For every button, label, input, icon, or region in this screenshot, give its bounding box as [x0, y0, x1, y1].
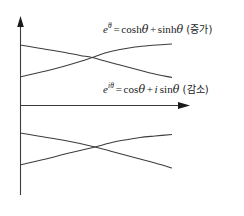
oscillation-annotation: (감소) [180, 84, 209, 95]
oscillation-cos-fn: cos [123, 83, 138, 95]
growth-sinh-fn: sinh [158, 23, 177, 35]
horizontal-axis-arrowhead-icon [178, 102, 190, 109]
growth-formula-label: eθ=coshθ+sinhθ(증가) [103, 22, 213, 36]
oscillation-sin-arg: θ [173, 83, 180, 96]
growth-annotation: (증가) [183, 24, 212, 35]
lower-growth-curve [20, 135, 172, 166]
growth-equals: = [112, 23, 121, 35]
upper-decay-curve [20, 45, 172, 78]
oscillation-formula-label: eiθ=cosθ+isinθ(감소) [103, 82, 209, 96]
growth-cosh-arg: θ [142, 23, 149, 36]
growth-plus: + [149, 23, 158, 35]
vertical-axis-arrowhead-icon [17, 16, 24, 27]
figure-canvas: eθ=coshθ+sinhθ(증가) eiθ=cosθ+isinθ(감소) [0, 0, 244, 216]
horizontal-axis [21, 102, 191, 109]
oscillation-sin-fn: sin [160, 83, 173, 95]
lower-decay-curve [20, 133, 172, 168]
oscillation-imaginary-unit: i [154, 83, 157, 95]
growth-cosh-fn: cosh [121, 23, 142, 35]
